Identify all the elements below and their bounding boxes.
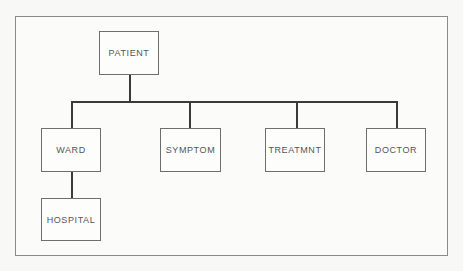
- node-symptom: SYMPTOM: [160, 128, 221, 172]
- connector-root-vertical: [129, 75, 131, 102]
- node-label: HOSPITAL: [47, 215, 96, 225]
- diagram-canvas: PATIENT WARD SYMPTOM TREATMNT DOCTOR HOS…: [0, 0, 463, 271]
- node-treatment: TREATMNT: [265, 128, 325, 172]
- node-label: PATIENT: [109, 48, 150, 58]
- node-hospital: HOSPITAL: [41, 198, 101, 241]
- node-doctor: DOCTOR: [366, 128, 426, 172]
- connector-ward: [71, 101, 73, 128]
- node-label: WARD: [56, 145, 86, 155]
- node-ward: WARD: [41, 128, 101, 172]
- node-label: SYMPTOM: [166, 145, 216, 155]
- node-label: DOCTOR: [375, 145, 417, 155]
- connector-horizontal-bus: [71, 101, 397, 103]
- node-patient: PATIENT: [99, 31, 159, 75]
- connector-symptom: [189, 101, 191, 128]
- connector-doctor: [396, 101, 398, 128]
- connector-treatment: [296, 101, 298, 128]
- node-label: TREATMNT: [268, 145, 321, 155]
- connector-ward-hospital: [71, 172, 73, 198]
